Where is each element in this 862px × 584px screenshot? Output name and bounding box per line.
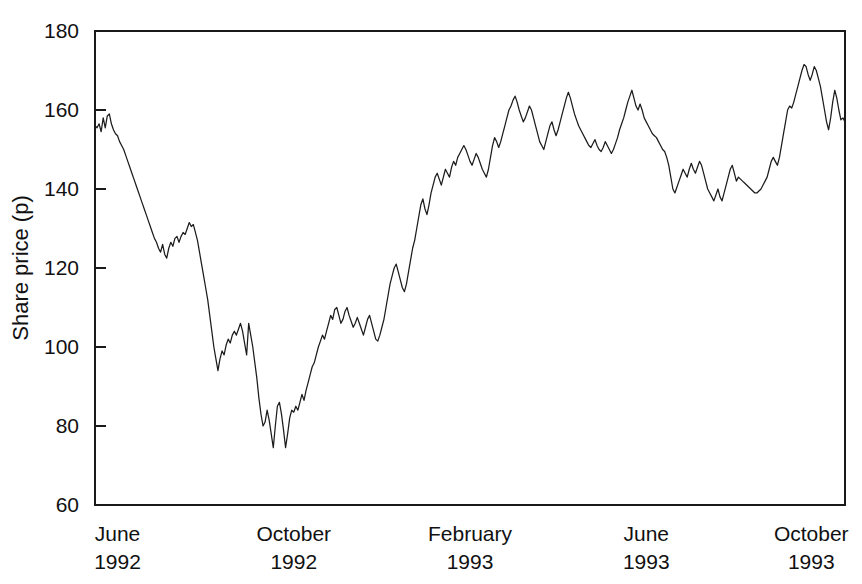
y-tick-label: 120 (44, 256, 79, 279)
y-tick-label: 100 (44, 335, 79, 358)
x-tick-label-month: February (428, 522, 513, 545)
y-tick-label: 160 (44, 98, 79, 121)
y-axis-title-text: Share price (p) (8, 195, 33, 341)
x-tick-label-month: June (623, 522, 669, 545)
x-tick-label-month: October (256, 522, 331, 545)
x-tick-label-year: 1992 (270, 550, 317, 573)
x-tick-label-year: 1992 (94, 550, 141, 573)
x-tick-label-year: 1993 (623, 550, 670, 573)
y-tick-label: 180 (44, 19, 79, 42)
x-tick-label-month: October (774, 522, 849, 545)
x-tick-label-month: June (95, 522, 141, 545)
x-axis-tick-labels: June1992October1992February1993June1993O… (94, 522, 848, 573)
x-tick-label-year: 1993 (788, 550, 835, 573)
plot-frame (95, 31, 845, 505)
chart-page: 1801601401201008060 June1992October1992F… (0, 0, 862, 584)
axis-ticks (95, 110, 106, 426)
share-price-line (95, 65, 845, 448)
price-series (95, 65, 845, 448)
y-axis-title: Share price (p) (8, 195, 33, 341)
share-price-line-chart: 1801601401201008060 June1992October1992F… (0, 0, 862, 584)
y-tick-label: 140 (44, 177, 79, 200)
x-tick-label-year: 1993 (447, 550, 494, 573)
y-axis-tick-labels: 1801601401201008060 (44, 19, 79, 516)
y-tick-label: 60 (56, 493, 79, 516)
y-tick-label: 80 (56, 414, 79, 437)
chart-axes (95, 31, 845, 505)
